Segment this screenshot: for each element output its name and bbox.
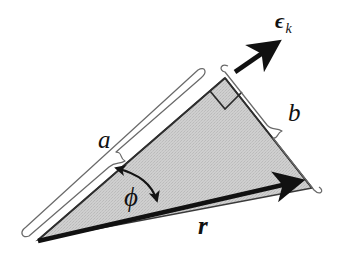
side-b-label: b xyxy=(288,100,301,125)
vector-epsilon-k-arrow xyxy=(235,43,277,72)
vector-epsilon-k-label: ϵk xyxy=(275,10,292,36)
triangle-polygon xyxy=(38,78,312,240)
side-a-label: a xyxy=(98,127,111,152)
vector-r-label: r xyxy=(198,213,208,238)
figure-canvas: a b r ϕ ϵk xyxy=(0,0,340,258)
epsilon-subscript-glyph: k xyxy=(285,21,291,36)
figure-vector-graphics xyxy=(0,0,340,258)
triangle-shape xyxy=(38,78,312,240)
angle-phi-label: ϕ xyxy=(124,184,138,211)
epsilon-base-glyph: ϵ xyxy=(275,8,284,33)
